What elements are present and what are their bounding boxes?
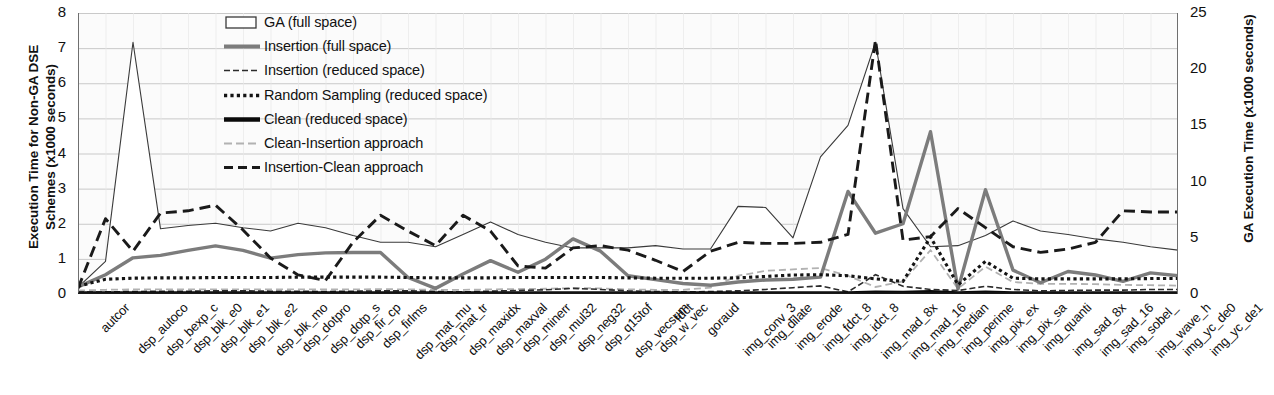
y-tick-left-1: 1 bbox=[42, 249, 66, 266]
legend-item-label: Random Sampling (reduced space) bbox=[264, 87, 487, 103]
gray-thick-line-icon bbox=[222, 39, 262, 53]
y-axis-right-title: GA Execution Time (x1000 seconds) bbox=[1240, 0, 1257, 259]
y-tick-left-4: 4 bbox=[42, 144, 66, 161]
legend-item[interactable]: Clean-Insertion approach bbox=[222, 131, 552, 155]
legend-item-label: Insertion (reduced space) bbox=[264, 62, 425, 78]
dotted-line-icon bbox=[222, 88, 262, 102]
bold-dashed-line-icon bbox=[222, 160, 262, 174]
y-tick-right-25: 25 bbox=[1190, 3, 1214, 20]
legend-item[interactable]: Insertion (reduced space) bbox=[222, 58, 552, 82]
x-tick-label: autcor bbox=[97, 300, 132, 335]
legend-item-label: Insertion-Clean approach bbox=[264, 159, 423, 175]
y-tick-left-2: 2 bbox=[42, 214, 66, 231]
y-tick-left-6: 6 bbox=[42, 73, 66, 90]
y-tick-left-3: 3 bbox=[42, 179, 66, 196]
legend-item[interactable]: Random Sampling (reduced space) bbox=[222, 83, 552, 107]
x-tick-label: goraud bbox=[704, 300, 742, 338]
y-tick-left-8: 8 bbox=[42, 3, 66, 20]
legend-item-label: Insertion (full space) bbox=[264, 38, 391, 54]
y-tick-left-5: 5 bbox=[42, 108, 66, 125]
box-outline-icon bbox=[222, 15, 262, 29]
legend-item[interactable]: Clean (reduced space) bbox=[222, 107, 552, 131]
y-tick-right-15: 15 bbox=[1190, 115, 1214, 132]
y-tick-right-10: 10 bbox=[1190, 172, 1214, 189]
legend-item[interactable]: Insertion (full space) bbox=[222, 34, 552, 58]
chart-legend: GA (full space)Insertion (full space)Ins… bbox=[222, 10, 552, 179]
y-tick-right-20: 20 bbox=[1190, 59, 1214, 76]
heavy-black-line-icon bbox=[222, 112, 262, 126]
legend-item-label: Clean (reduced space) bbox=[264, 111, 408, 127]
legend-item-label: GA (full space) bbox=[264, 14, 357, 30]
light-gray-dashed-line-icon bbox=[222, 136, 262, 150]
x-axis-category-labels: autcordsp_autocodsp_bexp_cdsp_blk_e0dsp_… bbox=[0, 296, 1274, 395]
legend-item-label: Clean-Insertion approach bbox=[264, 135, 423, 151]
y-tick-left-7: 7 bbox=[42, 38, 66, 55]
legend-item[interactable]: Insertion-Clean approach bbox=[222, 155, 552, 179]
chart-root: Execution Time for Non-GA DSE Schemes (x… bbox=[0, 0, 1274, 395]
legend-item[interactable]: GA (full space) bbox=[222, 10, 552, 34]
y-tick-right-5: 5 bbox=[1190, 228, 1214, 245]
thin-dashed-line-icon bbox=[222, 63, 262, 77]
